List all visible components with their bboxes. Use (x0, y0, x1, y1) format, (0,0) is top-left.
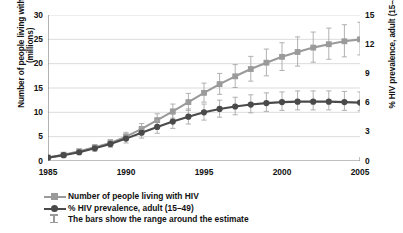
data-point (92, 145, 98, 151)
legend-marker-square (44, 191, 66, 201)
data-point (185, 114, 191, 120)
data-point (310, 99, 316, 105)
plot-area (48, 15, 360, 161)
data-point (170, 108, 176, 114)
data-point (295, 49, 301, 55)
y-tick-label-right: 12 (365, 39, 387, 49)
data-point (357, 100, 360, 106)
data-point (326, 41, 332, 47)
data-point (217, 106, 223, 112)
legend-label-people: Number of people living with HIV (68, 191, 199, 201)
data-point (154, 124, 160, 130)
legend-marker-errorbar (44, 214, 66, 226)
data-point (232, 73, 238, 79)
data-point (310, 45, 316, 51)
legend-item-prevalence[interactable]: % HIV prevalence, adult (15–49) (44, 202, 249, 214)
data-point (61, 152, 67, 158)
legend-label-errorbar-note: The bars show the range around the estim… (68, 214, 249, 224)
data-point (264, 60, 270, 66)
data-point (248, 66, 254, 72)
data-point (139, 130, 145, 136)
data-point (357, 36, 360, 42)
data-point (248, 101, 254, 107)
y-tick-label-right: 15 (365, 10, 387, 20)
legend-marker-circle (44, 203, 66, 213)
y-tick-label-right: 0 (365, 156, 387, 166)
data-point (201, 109, 207, 115)
data-point (186, 99, 192, 105)
x-tick-label: 1995 (187, 167, 221, 177)
data-point (341, 99, 347, 105)
x-tick-label: 2000 (265, 167, 299, 177)
legend-item-people[interactable]: Number of people living with HIV (44, 190, 249, 202)
data-point (123, 136, 129, 142)
legend-item-errorbar-note: The bars show the range around the estim… (44, 214, 249, 226)
y-tick-label-left: 5 (21, 131, 43, 141)
y-tick-label-left: 15 (21, 83, 43, 93)
legend-label-prevalence: % HIV prevalence, adult (15–49) (68, 203, 194, 213)
x-tick-label: 1985 (31, 167, 65, 177)
data-point (279, 99, 285, 105)
y-tick-label-left: 20 (21, 58, 43, 68)
x-tick-label: 2005 (343, 167, 377, 177)
data-point (201, 90, 207, 96)
y-tick-label-left: 30 (21, 10, 43, 20)
chart-legend: Number of people living with HIV % HIV p… (44, 190, 249, 226)
y-tick-label-left: 10 (21, 107, 43, 117)
data-point (76, 149, 82, 155)
data-point (232, 103, 238, 109)
data-point (295, 99, 301, 105)
y-tick-label-right: 9 (365, 68, 387, 78)
y-tick-label-right: 3 (365, 126, 387, 136)
data-point (342, 38, 348, 44)
data-point (170, 118, 176, 124)
y-tick-label-left: 0 (21, 156, 43, 166)
data-point (107, 141, 113, 147)
data-point (279, 54, 285, 60)
data-point (217, 81, 223, 87)
x-tick-label: 1990 (109, 167, 143, 177)
y-tick-label-left: 25 (21, 34, 43, 44)
y-axis-right-label: % HIV prevalence, adult (15–49) (388, 0, 397, 124)
data-point (326, 99, 332, 105)
y-tick-label-right: 6 (365, 97, 387, 107)
chart-figure: Number of people living with HIV (millio… (0, 0, 403, 233)
data-point (263, 100, 269, 106)
